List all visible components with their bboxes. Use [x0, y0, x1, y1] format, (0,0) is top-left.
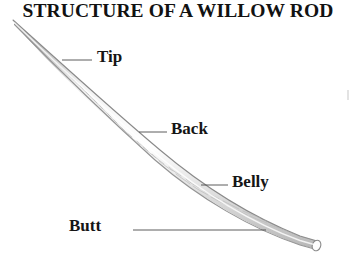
rod-body — [13, 20, 322, 252]
callout-label-belly: Belly — [232, 172, 269, 192]
scan-artifact-mark — [347, 90, 349, 100]
callout-label-back: Back — [171, 119, 208, 139]
callout-label-butt: Butt — [69, 216, 101, 236]
page-title: STRUCTURE OF A WILLOW ROD — [0, 0, 356, 21]
diagram-page: STRUCTURE OF A WILLOW ROD Tip Back Belly… — [0, 0, 356, 263]
callout-label-tip: Tip — [97, 47, 122, 67]
